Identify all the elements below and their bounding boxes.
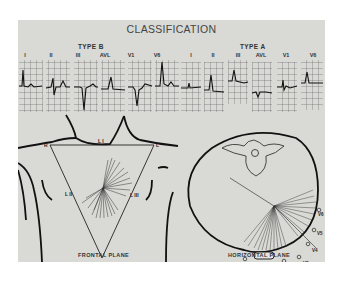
svg-text:R: R <box>44 142 48 148</box>
svg-text:L III: L III <box>130 192 139 198</box>
figure-panel: CLASSIFICATION TYPE B TYPE A I II III AV… <box>18 20 325 262</box>
svg-text:L II: L II <box>65 191 73 197</box>
svg-text:V5: V5 <box>317 231 323 236</box>
svg-text:V3: V3 <box>303 261 309 262</box>
svg-text:L I: L I <box>98 138 104 144</box>
svg-text:V6: V6 <box>318 212 324 217</box>
type-b-ecg-strips <box>19 60 179 112</box>
type-a-ecg-strips <box>181 60 323 112</box>
einthoven-triangle: R L VF L I L II L III <box>44 138 159 262</box>
svg-text:V4: V4 <box>312 248 318 253</box>
diagram-graphics: R L VF L I L II L III <box>18 20 325 262</box>
horizontal-plane-label: HORIZONTAL PLANE <box>228 252 290 258</box>
frontal-plane-label: FRONTAL PLANE <box>78 252 129 258</box>
svg-text:L: L <box>156 142 159 148</box>
horizontal-plane-diagram: V1 V2 V3 V4 V5 V6 <box>188 133 324 262</box>
